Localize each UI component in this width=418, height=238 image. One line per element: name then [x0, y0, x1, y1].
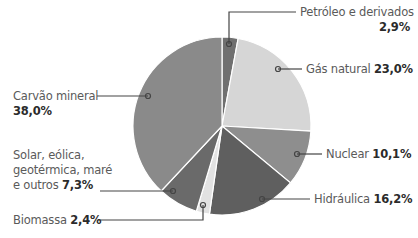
label-petroleo-value: 2,9% [379, 20, 410, 34]
label-petroleo-name: Petróleo e derivados [300, 5, 414, 19]
label-nuclear-name: Nuclear [326, 147, 369, 161]
label-gas: Gás natural 23,0% [306, 62, 413, 77]
pie-slices [133, 37, 311, 215]
label-gas-name: Gás natural [306, 62, 371, 76]
label-nuclear-value: 10,1% [372, 147, 411, 161]
label-biomassa-name: Biomassa [13, 213, 67, 227]
label-hidraulica-value: 16,2% [373, 192, 412, 206]
label-biomassa-value: 2,4% [70, 213, 101, 227]
label-solar-line2: geotérmica, maré [13, 163, 112, 177]
label-solar: Solar, eólica, geotérmica, maré e outros… [13, 148, 112, 193]
label-biomassa: Biomassa 2,4% [13, 213, 101, 228]
label-solar-value: 7,3% [62, 178, 93, 192]
label-carvao-name: Carvão mineral [13, 89, 98, 103]
label-carvao-value: 38,0% [13, 104, 52, 118]
pie-slice-1 [222, 38, 311, 131]
label-hidraulica: Hidráulica 16,2% [314, 192, 412, 207]
label-petroleo: Petróleo e derivados 2,9% [300, 5, 410, 35]
label-solar-line3: e outros [13, 178, 58, 192]
label-nuclear: Nuclear 10,1% [326, 147, 411, 162]
label-hidraulica-name: Hidráulica [314, 192, 370, 206]
label-gas-value: 23,0% [374, 62, 413, 76]
label-carvao: Carvão mineral 38,0% [13, 89, 98, 119]
label-solar-line1: Solar, eólica, [13, 148, 84, 162]
